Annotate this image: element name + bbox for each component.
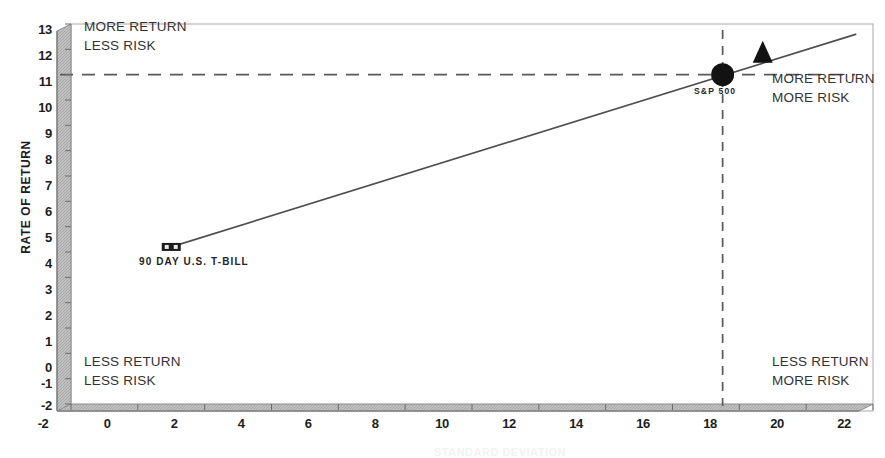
y-tick-0: 0 bbox=[26, 362, 52, 374]
x-tick-18: 18 bbox=[695, 418, 725, 430]
annotation-bottom-left-line1: LESS RETURN bbox=[84, 352, 181, 371]
annotation-bottom-left-line2: LESS RISK bbox=[84, 371, 181, 390]
y-tick-12: 12 bbox=[26, 50, 52, 62]
x-tick-22: 22 bbox=[829, 418, 859, 430]
y-tick-2: 2 bbox=[26, 310, 52, 322]
y-tick-1: 1 bbox=[26, 336, 52, 348]
x-tick-0: 0 bbox=[92, 418, 122, 430]
y-axis-title: RATE OF RETURN bbox=[19, 127, 33, 267]
x-tick-8: 8 bbox=[360, 418, 390, 430]
data-label-90-day-t-bill: 90 DAY U.S. T-BILL bbox=[139, 256, 249, 267]
data-label-sp-500: S&P 500 bbox=[694, 86, 736, 96]
annotation-bottom-right-line1: LESS RETURN bbox=[772, 352, 869, 371]
risk-return-chart: 13 12 11 10 9 8 7 6 5 4 3 2 1 0 -1 -2 -2… bbox=[0, 0, 885, 458]
annotation-bottom-right-line2: MORE RISK bbox=[772, 371, 869, 390]
x-tick-4: 4 bbox=[226, 418, 256, 430]
x-tick-16: 16 bbox=[628, 418, 658, 430]
y-tick-13: 13 bbox=[26, 24, 52, 36]
x-tick-20: 20 bbox=[762, 418, 792, 430]
x-tick-2: 2 bbox=[159, 418, 189, 430]
annotation-top-left: MORE RETURN LESS RISK bbox=[84, 17, 187, 55]
x-axis-bar bbox=[57, 404, 873, 411]
x-axis-title: STANDARD DEVIATION bbox=[370, 446, 630, 458]
annotation-top-left-line2: LESS RISK bbox=[84, 36, 187, 55]
y-tick-neg2: -2 bbox=[26, 400, 52, 412]
y-tick-neg1: -1 bbox=[26, 378, 52, 390]
annotation-top-right-line1: MORE RETURN bbox=[772, 69, 875, 88]
y-tick-11: 11 bbox=[26, 76, 52, 88]
y-tick-3: 3 bbox=[26, 284, 52, 296]
annotation-top-left-line1: MORE RETURN bbox=[84, 17, 187, 36]
x-tick-14: 14 bbox=[561, 418, 591, 430]
annotation-top-right-line2: MORE RISK bbox=[772, 88, 875, 107]
x-tick-10: 10 bbox=[427, 418, 457, 430]
annotation-bottom-right: LESS RETURN MORE RISK bbox=[772, 352, 869, 390]
marker-90-day-t-bill bbox=[162, 243, 181, 251]
x-tick-neg2: -2 bbox=[28, 418, 58, 430]
annotation-bottom-left: LESS RETURN LESS RISK bbox=[84, 352, 181, 390]
plot-frame bbox=[71, 24, 873, 411]
marker-sp-500 bbox=[711, 63, 734, 86]
y-tick-10: 10 bbox=[26, 102, 52, 114]
x-tick-12: 12 bbox=[494, 418, 524, 430]
x-tick-6: 6 bbox=[293, 418, 323, 430]
annotation-top-right: MORE RETURN MORE RISK bbox=[772, 69, 875, 107]
